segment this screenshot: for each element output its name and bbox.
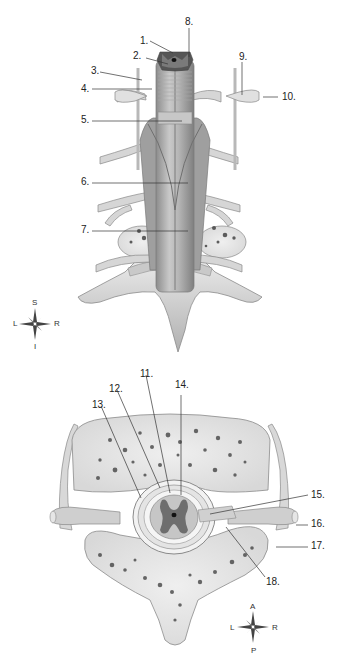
label-1: 1. [140, 36, 148, 46]
label-5: 5. [81, 115, 89, 125]
label-16: 16. [311, 519, 325, 529]
compass-left-bottom: L [230, 624, 234, 632]
label-15: 15. [311, 490, 325, 500]
label-17: 17. [311, 541, 325, 551]
compass-right-bottom: R [272, 624, 278, 632]
label-7: 7. [81, 225, 89, 235]
label-13: 13. [92, 400, 106, 410]
label-14: 14. [175, 380, 189, 390]
compass-posterior: P [251, 647, 256, 655]
compass-anterior: A [250, 603, 255, 611]
label-6: 6. [81, 177, 89, 187]
arachnoid-band [158, 112, 192, 124]
compass-inferior: I [34, 343, 36, 351]
compass-superior: S [32, 299, 37, 307]
posterior-view [19, 28, 278, 352]
label-2: 2. [133, 51, 141, 61]
label-4: 4. [81, 84, 89, 94]
anatomy-figure: 1. 2. 3. 4. 5. 6. 7. 8. 9. 10. S L R I 1… [0, 0, 338, 669]
label-11: 11. [140, 369, 153, 379]
compass-rose-bottom [237, 611, 269, 643]
compass-left: L [13, 320, 17, 328]
vertebral-body-section-right [198, 226, 246, 258]
label-18: 18. [266, 577, 280, 587]
label-8: 8. [185, 17, 193, 27]
central-canal-top [172, 58, 177, 62]
spinal-nerve-right [228, 507, 296, 525]
transverse-section [50, 375, 308, 645]
label-10: 10. [282, 92, 296, 102]
label-3: 3. [91, 66, 99, 76]
ganglion-right [226, 90, 259, 102]
label-12: 12. [109, 384, 123, 394]
central-canal [172, 513, 177, 517]
spinal-nerve-left [52, 507, 120, 525]
compass-rose-top [19, 308, 51, 340]
label-9: 9. [239, 52, 247, 62]
ganglion-left [115, 90, 147, 102]
compass-right: R [54, 320, 60, 328]
